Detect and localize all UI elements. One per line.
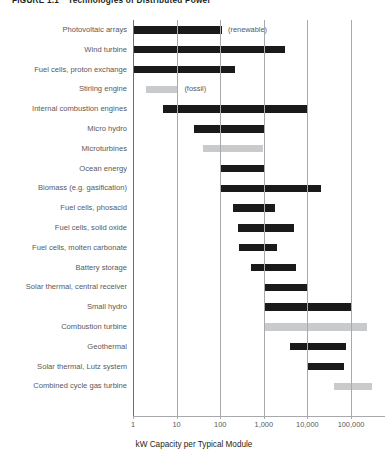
gridline-1 [133,20,134,416]
row-label-solar-thermal-lutz-system: Solar thermal, Lutz system [0,357,127,377]
row-label-solar-thermal-central-receiver: Solar thermal, central receiver [0,277,127,297]
chart-row: Microturbines [0,139,388,159]
row-label-stirling-engine: Stirling engine [0,79,127,99]
bar-combined-cycle-gas-turbine [334,383,372,390]
bar-solar-thermal-central-receiver [264,284,308,291]
tick-label-100000: 100,000 [338,420,365,429]
chart-row: Wind turbine [0,40,388,60]
bar-fuel-cells-molten-carbonate [239,244,277,251]
chart-row: Solar thermal, central receiver [0,277,388,297]
row-label-internal-combustion-engines: Internal combustion engines [0,99,127,119]
row-label-battery-storage: Battery storage [0,258,127,278]
tick-label-10000: 10,000 [296,420,319,429]
chart-row: Fuel cells, proton exchange [0,60,388,80]
bar-battery-storage [251,264,296,271]
bar-geothermal [290,343,346,350]
tick-100 [220,416,221,419]
tick-100000 [351,416,352,419]
row-label-microturbines: Microturbines [0,139,127,159]
x-axis-label: kW Capacity per Typical Module [0,440,388,449]
chart-row: Small hydro [0,297,388,317]
chart-row: Solar thermal, Lutz system [0,357,388,377]
chart-row: Fuel cells, molten carbonate [0,238,388,258]
gridline-100 [220,20,221,416]
bar-ocean-energy [220,165,264,172]
bar-wind-turbine [133,46,285,53]
gridline-10000 [307,20,308,416]
bar-fuel-cells-solid-oxide [238,224,295,231]
tick-1000 [264,416,265,419]
chart-row: Geothermal [0,337,388,357]
chart-row: Battery storage [0,258,388,278]
bar-microturbines [203,145,263,152]
bar-fuel-cells-phosacid [233,204,275,211]
row-label-fuel-cells-phosacid: Fuel cells, phosacid [0,198,127,218]
row-label-micro-hydro: Micro hydro [0,119,127,139]
annotation-renewable: (renewable) [228,20,267,40]
tick-10 [177,416,178,419]
row-label-biomass-e-g-gasification: Biomass (e.g. gasification) [0,178,127,198]
figure-page: FIGURE 1.1Technologies of Distributed Po… [0,0,388,465]
row-label-wind-turbine: Wind turbine [0,40,127,60]
chart-row: Internal combustion engines [0,99,388,119]
chart-row: Fuel cells, solid oxide [0,218,388,238]
row-label-small-hydro: Small hydro [0,297,127,317]
row-label-fuel-cells-molten-carbonate: Fuel cells, molten carbonate [0,238,127,258]
row-label-photovoltaic-arrays: Photovoltaic arrays [0,20,127,40]
tick-label-100: 100 [214,420,226,429]
tick-1 [133,416,134,419]
gridline-1000 [264,20,265,416]
gridline-100000 [351,20,352,416]
chart-row: Photovoltaic arrays(renewable) [0,20,388,40]
chart-row: Stirling engine(fossil) [0,79,388,99]
row-label-fuel-cells-proton-exchange: Fuel cells, proton exchange [0,60,127,80]
row-label-ocean-energy: Ocean energy [0,159,127,179]
row-label-combustion-turbine: Combustion turbine [0,317,127,337]
chart-row: Micro hydro [0,119,388,139]
bar-internal-combustion-engines [163,105,307,112]
bar-stirling-engine [146,86,178,93]
chart-row: Fuel cells, phosacid [0,198,388,218]
gridline-10 [177,20,178,416]
bar-micro-hydro [194,125,264,132]
chart-row: Ocean energy [0,159,388,179]
tick-label-10: 10 [172,420,180,429]
x-axis-line [133,416,385,417]
row-label-combined-cycle-gas-turbine: Combined cycle gas turbine [0,376,127,396]
chart-row: Combined cycle gas turbine [0,376,388,396]
tick-label-1000: 1,000 [255,420,274,429]
tick-label-1: 1 [131,420,135,429]
chart-row: Biomass (e.g. gasification) [0,178,388,198]
row-label-fuel-cells-solid-oxide: Fuel cells, solid oxide [0,218,127,238]
bar-solar-thermal-lutz-system [307,363,344,370]
chart-plot-area: Photovoltaic arrays(renewable)Wind turbi… [0,0,388,465]
chart-row: Combustion turbine [0,317,388,337]
tick-10000 [307,416,308,419]
annotation-fossil: (fossil) [184,79,206,99]
bar-biomass-e-g-gasification [220,185,320,192]
row-label-geothermal: Geothermal [0,337,127,357]
